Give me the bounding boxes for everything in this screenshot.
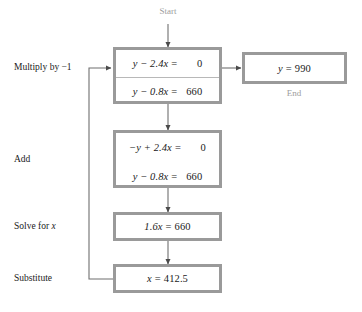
equation-equals: = xyxy=(163,221,175,232)
equation-equals: = xyxy=(172,142,184,153)
equation-equals: = xyxy=(152,273,164,284)
equation-rhs: 990 xyxy=(295,63,311,74)
node-x-value: x = 412.5 xyxy=(113,264,222,293)
flowchart-diagram: Start y − 2.4x = 0 y − 0.8x = 660 y = 99… xyxy=(0,0,362,312)
equation-lhs: y − 0.8x xyxy=(133,171,169,182)
equation-lhs: 1.6x xyxy=(144,221,162,232)
step-label-substitute: Substitute xyxy=(14,273,52,283)
equation-row: −y + 2.4x = 0 xyxy=(116,133,219,162)
equation-equals: = xyxy=(168,86,180,97)
equation-lhs: y − 0.8x xyxy=(133,86,169,97)
start-caption: Start xyxy=(148,6,188,16)
connector-feedback-substitute xyxy=(89,68,114,279)
step-label-multiply: Multiply by −1 xyxy=(14,62,72,72)
node-system-1: y − 2.4x = 0 y − 0.8x = 660 xyxy=(113,47,222,104)
equation-row: y − 0.8x = 660 xyxy=(116,78,219,104)
equation-rhs: 660 xyxy=(175,221,191,232)
equation-rhs: 0 xyxy=(184,142,206,153)
node-y-value: y = 990 xyxy=(242,52,347,84)
step-label-add: Add xyxy=(14,154,30,164)
equation-row: y − 2.4x = 0 xyxy=(116,50,219,78)
equation-row: 1.6x = 660 xyxy=(116,215,219,238)
equation-equals: = xyxy=(283,63,295,74)
equation-equals: = xyxy=(168,58,180,69)
equation-rhs: 660 xyxy=(180,171,202,182)
equation-equals: = xyxy=(168,171,180,182)
equation-rhs: 660 xyxy=(180,86,202,97)
equation-row: y − 0.8x = 660 xyxy=(116,162,219,191)
equation-row: x = 412.5 xyxy=(116,267,219,290)
equation-lhs: −y + 2.4x xyxy=(129,142,172,153)
equation-rhs: 0 xyxy=(180,58,202,69)
equation-rhs: 412.5 xyxy=(164,273,188,284)
equation-lhs: y − 2.4x xyxy=(133,58,169,69)
end-caption: End xyxy=(274,88,314,98)
node-solved-x-equation: 1.6x = 660 xyxy=(113,212,222,241)
step-label-solve: Solve for x xyxy=(14,221,56,231)
equation-row: y = 990 xyxy=(245,55,344,81)
node-system-2: −y + 2.4x = 0 y − 0.8x = 660 xyxy=(113,130,222,188)
